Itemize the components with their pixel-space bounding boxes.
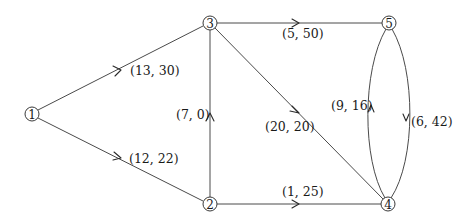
- edge-5-4: (6, 42): [391, 29, 453, 198]
- edge-label-2-4: (1, 25): [282, 184, 324, 199]
- edge-1-2: (12, 22): [38, 118, 203, 201]
- node-label-5: 5: [385, 17, 393, 31]
- edge-label-2-3: (7, 0): [176, 107, 210, 122]
- edge-label-3-4: (20, 20): [265, 119, 315, 134]
- node-3: 3: [203, 16, 217, 31]
- network-diagram: (13, 30) (12, 22) (7, 0) (5, 50) (20, 20…: [0, 0, 466, 224]
- node-label-3: 3: [206, 17, 214, 31]
- edge-1-3: (13, 30): [38, 26, 203, 110]
- node-4: 4: [381, 197, 395, 212]
- node-label-4: 4: [384, 198, 392, 212]
- edge-label-3-5: (5, 50): [282, 26, 324, 41]
- edge-2-4: (1, 25): [217, 184, 381, 208]
- edge-2-3: (7, 0): [176, 30, 214, 197]
- edge-label-5-4: (6, 42): [411, 114, 453, 129]
- edge-label-1-2: (12, 22): [129, 151, 179, 166]
- edge-3-4: (20, 20): [215, 28, 383, 199]
- node-label-2: 2: [206, 198, 214, 212]
- node-5: 5: [382, 16, 396, 31]
- edge-label-1-3: (13, 30): [130, 63, 180, 78]
- arrow-icon: [403, 114, 409, 121]
- node-2: 2: [203, 197, 217, 212]
- edge-label-4-5: (9, 16): [331, 98, 373, 113]
- node-label-1: 1: [28, 108, 36, 122]
- edge-4-5: (9, 16): [331, 29, 386, 198]
- edge-3-5: (5, 50): [217, 19, 382, 41]
- node-1: 1: [25, 107, 39, 122]
